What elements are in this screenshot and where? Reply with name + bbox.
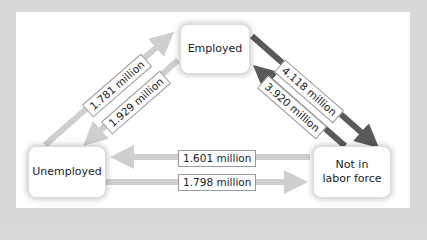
node-employed: Employed — [180, 24, 250, 74]
node-nilf-label-line2: labor force — [322, 172, 381, 186]
flow-label-unemployed-to-nilf: 1.798 million — [178, 174, 256, 191]
node-nilf-label-line1: Not in — [336, 158, 369, 172]
node-unemployed: Unemployed — [28, 146, 106, 198]
node-unemployed-label: Unemployed — [32, 165, 102, 179]
node-not-in-labor-force: Not in labor force — [313, 146, 391, 198]
flow-label-nilf-to-unemployed: 1.601 million — [178, 150, 256, 167]
node-employed-label: Employed — [188, 42, 243, 56]
